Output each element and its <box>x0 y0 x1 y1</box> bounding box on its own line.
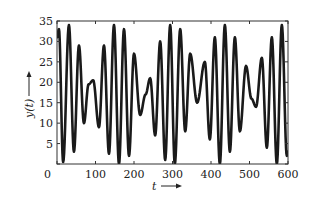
data-series-line <box>57 25 288 164</box>
x-tick-label: 300 <box>162 168 183 181</box>
y-tick-label: 10 <box>39 117 53 130</box>
x-tick-label: 400 <box>201 168 222 181</box>
line-chart: 01002003004005006005101520253035 t y(t) <box>0 0 317 201</box>
y-tick-label: 25 <box>39 56 53 69</box>
y-tick-label: 5 <box>46 138 53 151</box>
x-tick-label: 200 <box>124 168 145 181</box>
x-tick-label: 600 <box>278 168 299 181</box>
y-tick-label: 35 <box>39 15 53 28</box>
y-arrow-head-icon <box>27 71 32 77</box>
x-axis-label: t <box>152 180 157 193</box>
y-axis-label-group: y(t) <box>23 71 36 119</box>
plot-area <box>57 25 288 164</box>
y-axis-label: y(t) <box>23 99 36 119</box>
x-tick-label: 500 <box>239 168 260 181</box>
x-tick-label: 0 <box>44 168 51 181</box>
x-axis-label-group: t <box>152 180 182 193</box>
y-tick-label: 20 <box>39 76 53 89</box>
x-tick-label: 100 <box>85 168 106 181</box>
y-tick-label: 15 <box>39 97 53 110</box>
x-arrow-head-icon <box>176 184 182 189</box>
y-tick-label: 30 <box>39 35 53 48</box>
